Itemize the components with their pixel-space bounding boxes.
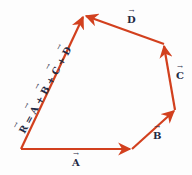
vector-diagram: A B C D R = A + B + C + D (0, 0, 192, 175)
label-c: C (176, 71, 184, 81)
label-a: A (72, 158, 80, 168)
vector-polygon (0, 0, 192, 175)
label-d: D (127, 15, 136, 25)
vector-c (164, 46, 175, 110)
vector-d (86, 16, 164, 44)
label-b: B (153, 131, 161, 141)
